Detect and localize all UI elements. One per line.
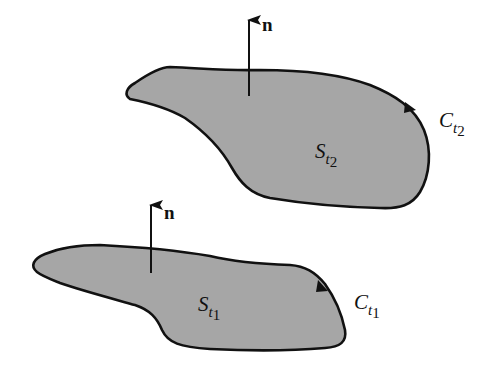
diagram-canvas: n St2 Ct2 n St1 Ct1	[0, 0, 499, 371]
curve-label-c-t2: Ct2	[439, 108, 465, 139]
upper-surface	[127, 67, 429, 208]
lower-surface	[33, 245, 345, 350]
curve-label-c-t1: Ct1	[354, 290, 380, 321]
surface-s-t1	[33, 245, 345, 350]
curve-direction-arrow-icon	[404, 102, 416, 113]
normal-label-upper: n	[262, 14, 273, 35]
normal-label-lower: n	[164, 202, 175, 223]
surface-s-t2	[127, 67, 429, 208]
